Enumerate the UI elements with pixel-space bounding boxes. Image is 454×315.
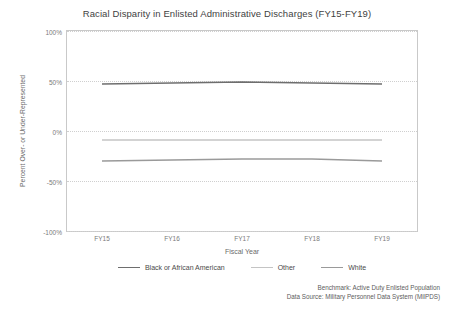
- series-line-black-or-african-american: [102, 82, 382, 84]
- footnote-benchmark: Benchmark: Active Duty Enlisted Populati…: [0, 283, 440, 292]
- x-tick-label-fy17: FY17: [234, 235, 250, 242]
- x-tick-label-fy18: FY18: [304, 235, 320, 242]
- series-lines: [67, 31, 417, 231]
- chart-legend: Black or African American Other White: [66, 264, 418, 271]
- legend-label-other: Other: [278, 264, 296, 271]
- x-tick-label-fy16: FY16: [164, 235, 180, 242]
- x-tick-label-fy15: FY15: [94, 235, 110, 242]
- legend-item-black-or-african-american: Black or African American: [118, 264, 225, 271]
- legend-swatch-white: [321, 267, 343, 268]
- legend-item-white: White: [321, 264, 366, 271]
- legend-swatch-black-or-african-american: [118, 267, 140, 268]
- y-tick-label-neg100: -100%: [43, 229, 62, 236]
- y-tick-label-100: 100%: [45, 29, 62, 36]
- gridline-neg100: -100%: [67, 231, 417, 232]
- legend-swatch-other: [251, 267, 273, 268]
- x-tick-label-fy19: FY19: [374, 235, 390, 242]
- y-tick-label-neg50: -50%: [47, 179, 62, 186]
- legend-item-other: Other: [251, 264, 296, 271]
- y-axis-title: Percent Over- or Under-Represented: [19, 75, 26, 187]
- y-tick-label-0: 0%: [53, 129, 62, 136]
- chart-title: Racial Disparity in Enlisted Administrat…: [0, 8, 454, 19]
- series-line-white: [102, 159, 382, 161]
- legend-label-black-or-african-american: Black or African American: [145, 264, 225, 271]
- chart-footnotes: Benchmark: Active Duty Enlisted Populati…: [0, 283, 440, 301]
- legend-label-white: White: [348, 264, 366, 271]
- footnote-data-source: Data Source: Military Personnel Data Sys…: [0, 292, 440, 301]
- chart-card: Racial Disparity in Enlisted Administrat…: [0, 0, 454, 315]
- x-axis-title: Fiscal Year: [66, 248, 418, 255]
- y-tick-label-50: 50%: [49, 79, 62, 86]
- plot-area: 100% 50% 0% -50% -100% FY15 FY16 FY17 FY…: [66, 30, 418, 232]
